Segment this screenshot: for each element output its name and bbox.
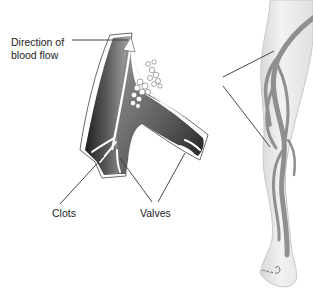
vein-diagram: Direction of blood flow Clots Valves <box>0 0 313 295</box>
label-clots: Clots <box>52 207 76 220</box>
label-direction-line1: Direction of <box>11 36 64 49</box>
leg-illustration <box>260 0 313 287</box>
label-valves: Valves <box>140 207 171 220</box>
label-direction-of-blood-flow: Direction of blood flow <box>11 36 64 62</box>
label-direction-line2: blood flow <box>11 49 64 62</box>
vein-cross-section <box>80 33 208 178</box>
